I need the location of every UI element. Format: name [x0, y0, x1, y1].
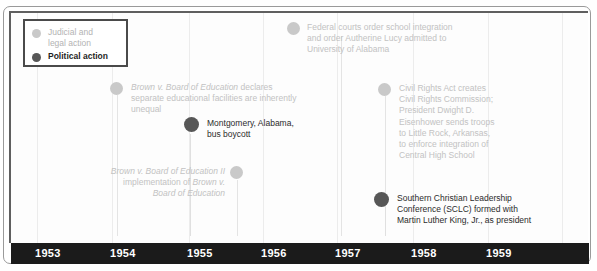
- axis-bar: 1953 1954 1955 1956 1957 1958 1959: [11, 243, 589, 264]
- legend-label-political: Political action: [48, 51, 108, 62]
- event-text-line1: Brown v. Board of Education II: [111, 166, 225, 176]
- event-text: Montgomery, Alabama, bus boycott: [207, 118, 357, 140]
- event-dot: [184, 117, 199, 132]
- event-dot: [378, 83, 391, 96]
- legend-item-judicial: Judicial and legal action: [32, 27, 126, 48]
- event-text: Southern Christian Leadership Conference…: [397, 193, 572, 227]
- timeline-figure: Judicial and legal action Political acti…: [0, 0, 597, 271]
- event-dot: [110, 82, 123, 95]
- event-text: Brown v. Board of Education declares sep…: [131, 82, 341, 116]
- legend-label-judicial: Judicial and legal action: [48, 27, 93, 48]
- event-stem: [237, 180, 238, 236]
- legend-dot-judicial: [32, 29, 41, 38]
- event-text-line3: Board of Education: [153, 188, 225, 198]
- axis-year-1954: 1954: [110, 243, 136, 264]
- event-text-line2-italic: Brown v.: [193, 177, 225, 187]
- axis-year-1959: 1959: [486, 243, 512, 264]
- event-text-line2-plain: implementation of: [123, 177, 192, 187]
- axis-year-1958: 1958: [411, 243, 437, 264]
- axis-year-1953: 1953: [35, 243, 61, 264]
- event-dot: [287, 22, 300, 35]
- event-text: Federal courts order school integration …: [307, 22, 522, 56]
- event-dot: [230, 166, 243, 179]
- axis-year-1956: 1956: [261, 243, 287, 264]
- event-stem: [385, 207, 386, 236]
- event-text-italic: Brown v. Board of Education: [131, 82, 238, 92]
- axis-year-1957: 1957: [335, 243, 361, 264]
- event-text: Brown v. Board of Education IIimplementa…: [40, 166, 225, 200]
- legend-item-political: Political action: [32, 51, 126, 62]
- event-dot: [374, 192, 389, 207]
- legend: Judicial and legal action Political acti…: [23, 19, 128, 67]
- event-text: Civil Rights Act creates Civil Rights Co…: [399, 83, 559, 161]
- axis-year-1955: 1955: [187, 243, 213, 264]
- legend-dot-political: [32, 53, 41, 62]
